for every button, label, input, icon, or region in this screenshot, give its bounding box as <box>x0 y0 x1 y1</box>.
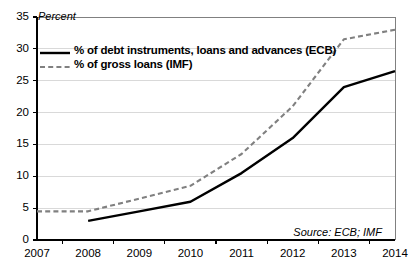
y-tick-label: 35 <box>3 11 29 23</box>
legend-label: % of gross loans (IMF) <box>74 59 192 71</box>
x-tick-label: 2009 <box>119 248 159 260</box>
x-tick-label: 2008 <box>68 248 108 260</box>
x-tick-label: 2013 <box>324 248 364 260</box>
x-tick-label: 2012 <box>273 248 313 260</box>
chart-plot-area <box>0 0 410 280</box>
y-tick-label: 0 <box>3 234 29 246</box>
legend-item: % of debt instruments, loans and advance… <box>40 44 320 58</box>
y-tick-label: 15 <box>3 138 29 150</box>
x-tick-label: 2010 <box>170 248 210 260</box>
x-tick-label: 2011 <box>222 248 262 260</box>
source-annotation: Source: ECB; IMF <box>293 227 382 238</box>
y-tick-label: 30 <box>3 43 29 55</box>
legend-swatch-solid <box>40 45 70 57</box>
series-line-1 <box>88 71 395 221</box>
y-axis-unit-label: Percent <box>38 11 76 22</box>
chart-legend: % of debt instruments, loans and advance… <box>40 44 320 72</box>
chart-container: Percent 05101520253035 20072008200920102… <box>0 0 410 280</box>
legend-label: % of debt instruments, loans and advance… <box>74 45 336 57</box>
y-tick-label: 20 <box>3 107 29 119</box>
legend-item: % of gross loans (IMF) <box>40 58 320 72</box>
gridlines <box>37 49 395 208</box>
legend-swatch-dashed <box>40 59 70 71</box>
y-tick-label: 5 <box>3 202 29 214</box>
y-tick-label: 10 <box>3 170 29 182</box>
x-tick-label: 2014 <box>375 248 410 260</box>
y-tick-label: 25 <box>3 75 29 87</box>
x-tick-label: 2007 <box>17 248 57 260</box>
